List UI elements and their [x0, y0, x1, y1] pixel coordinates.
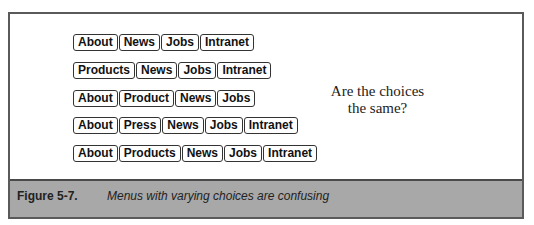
menu-item-about: About	[73, 145, 118, 162]
menu-item-about: About	[73, 117, 118, 134]
menu-item-jobs: Jobs	[224, 145, 262, 162]
menu-item-intranet: Intranet	[244, 117, 298, 134]
menu-item-intranet: Intranet	[263, 145, 317, 162]
menu-item-news: News	[182, 145, 223, 162]
menu-item-press: Press	[119, 117, 162, 134]
menu-row-3: About Product News Jobs	[73, 90, 256, 107]
menu-item-products: Products	[119, 145, 181, 162]
menu-item-news: News	[136, 62, 177, 79]
figure-body: About News Jobs Intranet Products News J…	[10, 14, 522, 183]
menu-item-jobs: Jobs	[217, 90, 255, 107]
menu-item-news: News	[119, 34, 160, 51]
menu-item-jobs: Jobs	[161, 34, 199, 51]
menu-item-jobs: Jobs	[178, 62, 216, 79]
menu-item-about: About	[73, 90, 118, 107]
figure-caption: Figure 5-7. Menus with varying choices a…	[10, 179, 522, 217]
menu-item-about: About	[73, 34, 118, 51]
question-line-2: the same?	[310, 100, 445, 117]
menu-row-5: About Products News Jobs Intranet	[73, 145, 318, 162]
menu-item-product: Product	[119, 90, 174, 107]
menu-row-4: About Press News Jobs Intranet	[73, 117, 299, 134]
menu-item-news: News	[162, 117, 203, 134]
caption-text: Menus with varying choices are confusing	[107, 189, 329, 203]
menu-row-2: Products News Jobs Intranet	[73, 62, 272, 79]
figure: About News Jobs Intranet Products News J…	[8, 12, 524, 219]
menu-item-intranet: Intranet	[217, 62, 271, 79]
question-annotation: Are the choices the same?	[310, 83, 445, 117]
caption-label: Figure 5-7.	[17, 189, 78, 203]
menu-item-intranet: Intranet	[200, 34, 254, 51]
menu-item-products: Products	[73, 62, 135, 79]
question-line-1: Are the choices	[310, 83, 445, 100]
menu-item-news: News	[175, 90, 216, 107]
menu-item-jobs: Jobs	[205, 117, 243, 134]
menu-row-1: About News Jobs Intranet	[73, 34, 255, 51]
